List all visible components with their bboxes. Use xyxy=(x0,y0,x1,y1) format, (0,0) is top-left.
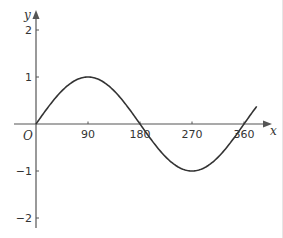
y-tick-label: 2 xyxy=(25,24,32,37)
panel-divider xyxy=(282,0,283,238)
y-tick-label: 1 xyxy=(25,71,32,84)
y-tick-label: −1 xyxy=(16,165,32,178)
x-tick-label: 90 xyxy=(81,128,95,141)
x-tick-label: 270 xyxy=(182,128,203,141)
x-axis-label: x xyxy=(270,124,277,138)
y-tick-label: −2 xyxy=(16,212,32,225)
sine-chart: 90180270360−2−112 y x O xyxy=(0,0,283,238)
axes xyxy=(14,10,272,228)
y-axis-arrow-icon xyxy=(33,10,40,19)
y-axis-label: y xyxy=(23,8,31,22)
origin-label: O xyxy=(23,129,33,143)
